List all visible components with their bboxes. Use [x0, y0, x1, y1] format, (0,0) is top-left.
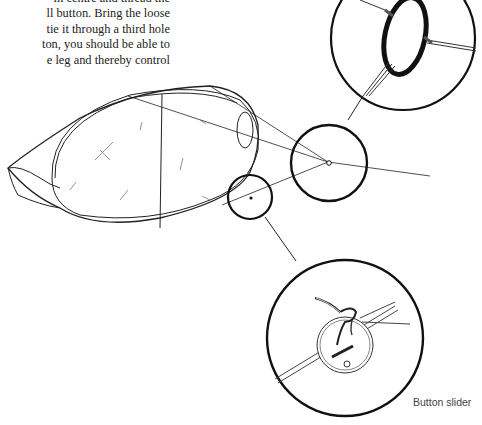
bridle-point-circle	[291, 125, 367, 201]
figure-caption: Button slider	[413, 396, 471, 408]
kite-illustration	[0, 0, 482, 425]
button-detail-circle	[267, 260, 423, 416]
ring-detail-circle	[331, 0, 476, 120]
button-slider-circle	[228, 175, 296, 261]
